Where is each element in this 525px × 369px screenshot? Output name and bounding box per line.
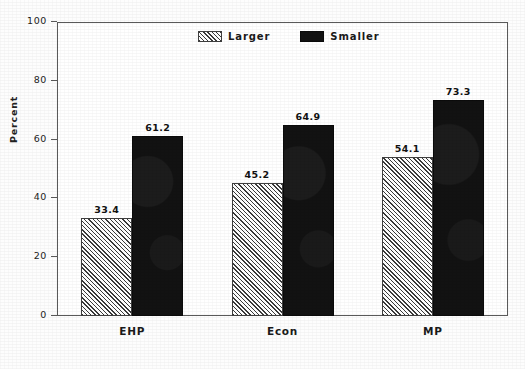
y-tick-label: 0 <box>40 309 47 320</box>
y-tick-label: 80 <box>34 74 47 85</box>
bar-value-label: 45.2 <box>244 169 269 180</box>
legend-label: Smaller <box>330 31 379 42</box>
bar-value-label: 73.3 <box>446 86 471 97</box>
bar-value-label: 54.1 <box>395 143 420 154</box>
y-tick-label: 40 <box>34 191 47 202</box>
legend-label: Larger <box>228 31 270 42</box>
bar-value-label: 61.2 <box>145 122 170 133</box>
y-tick-label: 100 <box>27 15 47 26</box>
legend-swatch-larger <box>198 31 222 42</box>
bar-ehp-larger <box>81 218 132 316</box>
legend-item-larger[interactable]: Larger <box>198 31 270 42</box>
bar-ehp-smaller <box>132 136 183 316</box>
bar-econ-smaller <box>283 125 334 316</box>
chart-legend: LargerSmaller <box>198 31 380 42</box>
y-tick-label: 20 <box>34 250 47 261</box>
bar-mp-smaller <box>433 100 484 316</box>
bar-value-label: 64.9 <box>295 111 320 122</box>
legend-item-smaller[interactable]: Smaller <box>300 31 379 42</box>
bar-chart-figure: Percent 020406080100 LargerSmaller 33.46… <box>0 0 525 369</box>
x-axis-label-mp: MP <box>423 325 443 337</box>
y-tick-label: 60 <box>34 133 47 144</box>
x-axis-label-ehp: EHP <box>119 325 145 337</box>
bar-econ-larger <box>232 183 283 316</box>
legend-swatch-smaller <box>300 31 324 42</box>
bar-value-label: 33.4 <box>94 204 119 215</box>
y-axis-title: Percent <box>8 96 19 143</box>
x-axis-label-econ: Econ <box>267 325 298 337</box>
bar-mp-larger <box>382 157 433 316</box>
